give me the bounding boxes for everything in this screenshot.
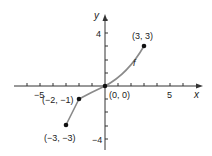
- function-graph: y x −5 5 4 −4 (3, 3) (−2, −1) (0, 0) (−3…: [0, 0, 212, 156]
- x-axis-label: x: [193, 89, 200, 100]
- point-label-3-3: (3, 3): [132, 31, 153, 41]
- point-3-3: [142, 44, 147, 49]
- point-label-neg3-neg3: (−3, −3): [44, 133, 76, 143]
- function-label-f: f: [133, 58, 137, 68]
- y-tick-label-4: 4: [96, 29, 101, 39]
- y-tick-label-neg4: −4: [92, 135, 102, 145]
- y-axis-label: y: [93, 10, 100, 21]
- x-tick-label-5: 5: [167, 90, 172, 100]
- point-origin: [103, 84, 108, 89]
- x-axis-arrow-icon: [196, 84, 203, 89]
- point-label-origin: (0, 0): [109, 90, 130, 100]
- graph-canvas: y x −5 5 4 −4 (3, 3) (−2, −1) (0, 0) (−3…: [0, 0, 212, 156]
- point-neg3-neg3: [64, 123, 69, 128]
- point-label-neg2-neg1: (−2, −1): [42, 95, 74, 105]
- point-neg2-neg1: [77, 97, 82, 102]
